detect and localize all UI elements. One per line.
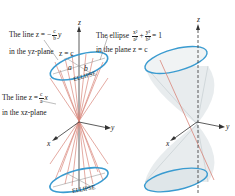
right-axis-z-label: z	[197, 16, 200, 24]
left-axis-y-label: y	[111, 124, 114, 132]
label-line-yz: The line z = −cby	[9, 29, 61, 41]
double-cone	[142, 41, 214, 196]
left-axis-z-label: z	[78, 19, 81, 27]
label-line-yz-plane: in the yz-plane	[9, 48, 54, 56]
right-axis-x-label: x	[166, 140, 169, 148]
left-axis-x-label: x	[47, 140, 50, 148]
label-ellipse-plane: in the plane z = c	[96, 46, 148, 54]
right-axis-y-label: y	[226, 123, 229, 131]
label-line-xz-plane: in the xz-plane	[2, 109, 47, 117]
label-plane-z-c: z = c	[59, 50, 74, 58]
label-line-xz: The line z =cax	[2, 92, 48, 104]
label-ellipse-equation: The ellipse x²a²+y²b²= 1	[96, 30, 162, 42]
semi-axis-a: a	[68, 64, 72, 72]
